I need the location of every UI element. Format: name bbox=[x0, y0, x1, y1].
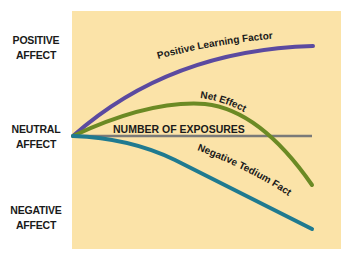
negative-curve-label-text: Negative Tedium Factor bbox=[0, 0, 294, 198]
affect-diagram: NUMBER OF EXPOSURES Positive Learning Fa… bbox=[0, 0, 358, 259]
net-curve-label-text: Net Effect bbox=[200, 89, 249, 114]
net-effect-curve bbox=[73, 104, 312, 185]
positive-curve-label-text: Positive Learning Factor bbox=[156, 30, 273, 61]
net-curve-label: Net Effect bbox=[200, 89, 249, 114]
positive-curve-label: Positive Learning Factor bbox=[156, 30, 273, 61]
axis-label: NUMBER OF EXPOSURES bbox=[113, 123, 245, 135]
negative-curve-label: Negative Tedium Factor bbox=[0, 0, 294, 198]
